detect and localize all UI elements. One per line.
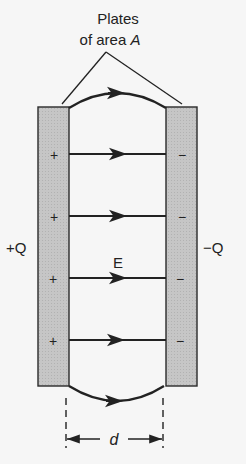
plus-sign: + [49,271,57,287]
plates-label-line2: of area A [80,31,141,48]
plates-label-line1: Plates [97,10,139,27]
field-label: E [113,254,123,271]
field-line-top-curve [69,93,166,108]
plus-sign: + [49,333,57,349]
minus-sign: − [178,209,186,225]
minus-sign: − [176,333,184,349]
positive-charge-label: +Q [6,239,26,256]
diagram-svg: Plates of area A + + + + − − − − +Q [0,0,246,464]
minus-sign: − [178,147,186,163]
plus-sign: + [50,147,58,163]
plus-sign: + [50,209,58,225]
leader-line-right [106,52,182,104]
minus-sign: − [176,271,184,287]
capacitor-diagram: Plates of area A + + + + − − − − +Q [0,0,246,464]
negative-charge-label: −Q [203,239,223,256]
field-line-bottom-curve [69,386,164,401]
separation-label: d [110,431,120,448]
